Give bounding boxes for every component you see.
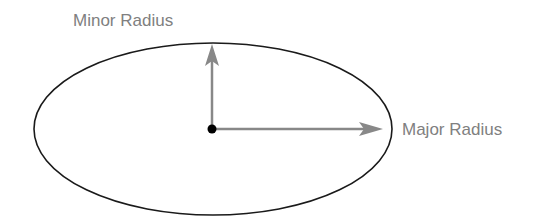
center-point (208, 125, 217, 134)
major-radius-label: Major Radius (402, 120, 502, 140)
minor-radius-arrow (205, 44, 219, 129)
ellipse-diagram (0, 0, 555, 223)
major-radius-arrow (212, 122, 383, 136)
minor-radius-label: Minor Radius (73, 11, 173, 31)
